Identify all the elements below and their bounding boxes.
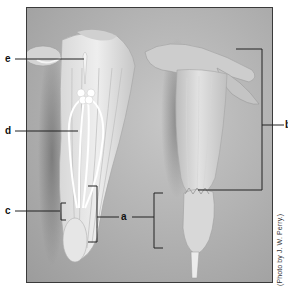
- label-d: d: [5, 126, 11, 136]
- bracket-a-left: [88, 186, 97, 242]
- bracket-a-right: [154, 193, 163, 248]
- label-b: b: [285, 120, 288, 130]
- figure: e d c a b (Photo by J. W. Perry.): [0, 0, 288, 289]
- label-e: e: [5, 54, 11, 64]
- photo-credit: (Photo by J. W. Perry.): [276, 214, 283, 286]
- label-a: a: [121, 212, 127, 222]
- bracket-c: [61, 203, 66, 220]
- label-c: c: [5, 206, 11, 216]
- annotation-lines: [0, 0, 288, 289]
- bracket-b: [198, 49, 262, 190]
